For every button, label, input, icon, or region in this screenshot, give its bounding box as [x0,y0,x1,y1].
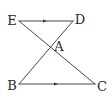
parallel-arrow-icon [43,19,47,22]
geometry-figure: E D A B C [0,0,112,98]
point-label-d: D [75,13,85,26]
segment-db [19,21,73,84]
point-label-c: C [97,80,107,93]
point-label-b: B [7,79,17,92]
point-label-a: A [54,40,63,53]
point-label-e: E [7,14,17,27]
parallel-arrow-icon [54,82,58,85]
